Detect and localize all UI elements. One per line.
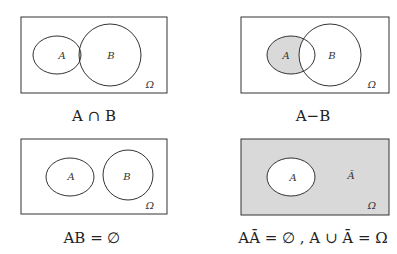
- label-b: B: [106, 50, 114, 61]
- panel-difference: A B Ω A−B: [241, 17, 389, 125]
- label-omega: Ω: [145, 200, 154, 211]
- label-omega: Ω: [367, 79, 376, 90]
- venn-diagrams: A B Ω A ∩ B A B Ω A−B A B Ω AB = ∅ A Ā Ω…: [0, 0, 397, 254]
- label-b: B: [122, 171, 130, 182]
- label-b: B: [327, 50, 335, 61]
- caption: A ∩ B: [71, 107, 116, 125]
- panel-intersection: A B Ω A ∩ B: [21, 17, 167, 125]
- label-a: A: [281, 50, 289, 61]
- label-a: A: [66, 171, 74, 182]
- panel-disjoint: A B Ω AB = ∅: [21, 139, 167, 247]
- caption: A−B: [295, 107, 330, 125]
- label-a: A: [57, 50, 65, 61]
- label-omega: Ω: [367, 200, 376, 211]
- label-omega: Ω: [145, 79, 154, 90]
- caption: AB = ∅: [63, 229, 121, 247]
- label-a: A: [288, 172, 296, 183]
- label-complement: Ā: [346, 170, 354, 181]
- panel-complement: A Ā Ω AĀ = ∅ , A ∪ Ā = Ω: [237, 139, 389, 247]
- caption: AĀ = ∅ , A ∪ Ā = Ω: [237, 229, 387, 247]
